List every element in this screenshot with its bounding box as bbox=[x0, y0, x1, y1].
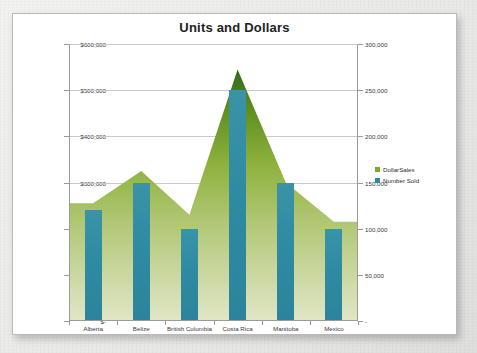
x-axis-tickmark bbox=[358, 321, 359, 325]
legend-item-number-sold: Number Sold bbox=[375, 177, 419, 184]
x-axis-tickmark bbox=[262, 321, 263, 325]
x-axis-label-manitoba: Manitoba bbox=[273, 325, 298, 332]
x-axis-label-mexico: Mexico bbox=[324, 325, 344, 332]
legend-label-number-sold: Number Sold bbox=[383, 177, 419, 184]
bar-belize bbox=[133, 183, 150, 322]
x-axis-tickmark bbox=[69, 321, 70, 325]
bar-alberta bbox=[85, 210, 102, 321]
y-axis-right-tickmark bbox=[358, 90, 363, 91]
y-axis-right-tick-5: 50,000 bbox=[365, 271, 425, 278]
x-axis-label-british-columbia: British Columbia bbox=[167, 325, 212, 332]
legend-swatch-icon bbox=[375, 167, 380, 172]
y-axis-right-tick-4: 100,000 bbox=[365, 225, 425, 232]
bar-manitoba bbox=[277, 183, 294, 322]
y-axis-right-tick-6: - bbox=[365, 318, 425, 325]
area-series-dollarsales bbox=[69, 44, 358, 321]
y-axis-right-tick-1: 250,000 bbox=[365, 87, 425, 94]
y-axis-right-tickmark bbox=[358, 183, 363, 184]
x-axis-label-costa-rica: Costa Rica bbox=[222, 325, 252, 332]
legend-item-dollarsales: DollarSales bbox=[375, 166, 419, 173]
bar-mexico bbox=[325, 229, 342, 321]
y-axis-right-tick-0: 300,000 bbox=[365, 41, 425, 48]
x-axis-tickmark bbox=[117, 321, 118, 325]
y-axis-right-tick-2: 200,000 bbox=[365, 133, 425, 140]
chart-title: Units and Dollars bbox=[13, 20, 456, 35]
y-axis-right-tickmark bbox=[358, 44, 363, 45]
x-axis-label-alberta: Alberta bbox=[83, 325, 103, 332]
x-axis-tickmark bbox=[310, 321, 311, 325]
chart-card: Units and Dollars $600,000 $500,000 $400… bbox=[12, 13, 457, 335]
chart-legend: DollarSales Number Sold bbox=[375, 166, 419, 188]
bar-british-columbia bbox=[181, 229, 198, 321]
y-axis-right-tickmark bbox=[358, 229, 363, 230]
y-axis-right-tickmark bbox=[358, 275, 363, 276]
y-axis-right-tickmark bbox=[358, 136, 363, 137]
plot-area bbox=[69, 44, 358, 321]
legend-label-dollarsales: DollarSales bbox=[383, 166, 415, 173]
x-axis-tickmark bbox=[214, 321, 215, 325]
bar-costa-rica bbox=[229, 90, 246, 321]
legend-swatch-icon bbox=[375, 178, 380, 183]
x-axis-label-belize: Belize bbox=[133, 325, 150, 332]
x-axis-tickmark bbox=[165, 321, 166, 325]
